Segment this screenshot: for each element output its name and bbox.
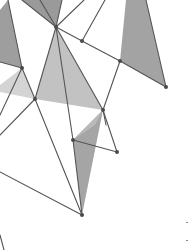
node-j bbox=[80, 213, 84, 217]
facet-center bbox=[35, 27, 103, 110]
node-i bbox=[115, 150, 119, 154]
node-g bbox=[101, 108, 105, 112]
node-a bbox=[54, 25, 58, 29]
shaded-facets bbox=[0, 0, 166, 215]
node-c bbox=[118, 59, 122, 63]
edge-marks bbox=[186, 222, 188, 241]
node-b bbox=[80, 39, 84, 43]
node-e bbox=[20, 66, 24, 70]
geometric-network-artwork bbox=[0, 0, 188, 250]
node-h bbox=[71, 138, 75, 142]
facet-top-left bbox=[0, 0, 22, 68]
node-d bbox=[164, 85, 168, 89]
node-f bbox=[33, 97, 37, 101]
facet-light-band bbox=[0, 68, 35, 99]
